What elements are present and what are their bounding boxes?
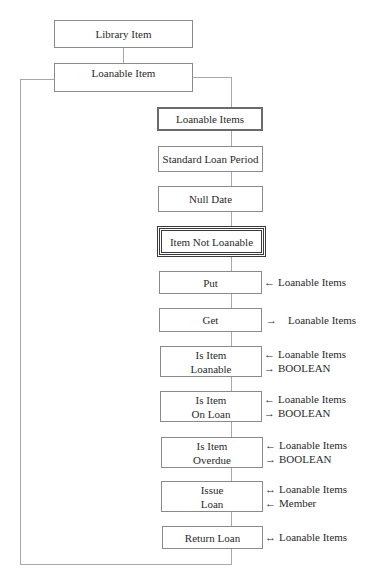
interface-label: Loanable Items: [288, 313, 356, 327]
connector-left-spine: [20, 79, 21, 564]
operation-label: Return Loan: [185, 531, 240, 545]
attribute-label: Item Not Loanable: [170, 235, 253, 249]
connector-root-parent: [123, 48, 124, 63]
arrow-in-icon: ←: [264, 275, 278, 289]
operation-return-loan[interactable]: Return Loan: [162, 526, 263, 549]
arrow-in-icon: ←: [265, 496, 279, 510]
operation-label-line2: Loanable: [191, 362, 232, 376]
operation-is-item-loanable[interactable]: Is Item Loanable: [160, 346, 262, 377]
attribute-null-date[interactable]: Null Date: [158, 186, 263, 212]
arrow-in-icon: ←: [265, 438, 279, 452]
arrow-out-icon: →: [264, 361, 278, 375]
operation-label-line2: On Loan: [192, 407, 231, 421]
attribute-label: Null Date: [189, 192, 232, 206]
operation-is-item-overdue[interactable]: Is Item Overdue: [161, 437, 263, 468]
attribute-standard-loan-period[interactable]: Standard Loan Period: [158, 146, 263, 172]
interface-is-item-overdue: ←Loanable Items →BOOLEAN: [265, 438, 347, 466]
interface-label: Loanable Items: [278, 392, 346, 406]
interface-label: Loanable Items: [279, 530, 347, 544]
arrow-out-icon: →: [264, 406, 278, 420]
loanable-item-box[interactable]: Loanable Item: [54, 63, 193, 92]
operation-label-line1: Is Item: [196, 393, 227, 407]
interface-label: Member: [279, 496, 316, 510]
operation-label-line1: Is Item: [197, 439, 228, 453]
operation-get[interactable]: Get: [159, 308, 262, 332]
interface-label: Loanable Items: [278, 347, 346, 361]
arrow-out-icon: →: [265, 452, 279, 466]
interface-is-item-on-loan: ←Loanable Items →BOOLEAN: [264, 392, 346, 420]
interface-label: BOOLEAN: [279, 452, 332, 466]
interface-get: →Loanable Items: [266, 313, 356, 327]
arrow-bidirectional-icon: ↔: [265, 482, 279, 496]
connector-parent-left: [20, 79, 54, 80]
interface-label: BOOLEAN: [278, 406, 331, 420]
connector-parent-right: [193, 77, 232, 78]
interface-issue-loan: ↔Loanable Items ←Member: [265, 482, 347, 510]
attribute-item-not-loanable[interactable]: Item Not Loanable: [157, 226, 266, 257]
library-item-label: Library Item: [96, 27, 152, 41]
loanable-item-label: Loanable Item: [92, 66, 156, 80]
operation-issue-loan[interactable]: Issue Loan: [161, 481, 263, 512]
interface-return-loan: ↔Loanable Items: [265, 530, 347, 544]
interface-label: Loanable Items: [279, 482, 347, 496]
interface-label: BOOLEAN: [278, 361, 331, 375]
interface-label: Loanable Items: [278, 275, 346, 289]
attribute-label: Standard Loan Period: [163, 152, 259, 166]
operation-label-line2: Overdue: [193, 453, 231, 467]
operation-label-line1: Is Item: [196, 348, 227, 362]
operation-label-line2: Loan: [201, 497, 224, 511]
arrow-bidirectional-icon: ↔: [265, 530, 279, 544]
operation-label: Put: [203, 276, 218, 290]
arrow-in-icon: ←: [264, 392, 278, 406]
operation-label: Get: [203, 313, 219, 327]
library-item-box[interactable]: Library Item: [54, 20, 193, 48]
operation-is-item-on-loan[interactable]: Is Item On Loan: [160, 391, 262, 422]
attribute-loanable-items[interactable]: Loanable Items: [157, 107, 263, 131]
operation-put[interactable]: Put: [159, 271, 262, 294]
interface-label: Loanable Items: [279, 438, 347, 452]
connector-bottom: [20, 564, 232, 565]
arrow-out-icon: →: [266, 313, 288, 327]
arrow-in-icon: ←: [264, 347, 278, 361]
interface-is-item-loanable: ←Loanable Items →BOOLEAN: [264, 347, 346, 375]
attribute-label: Loanable Items: [176, 112, 244, 126]
operation-label-line1: Issue: [201, 483, 224, 497]
interface-put: ←Loanable Items: [264, 275, 346, 289]
